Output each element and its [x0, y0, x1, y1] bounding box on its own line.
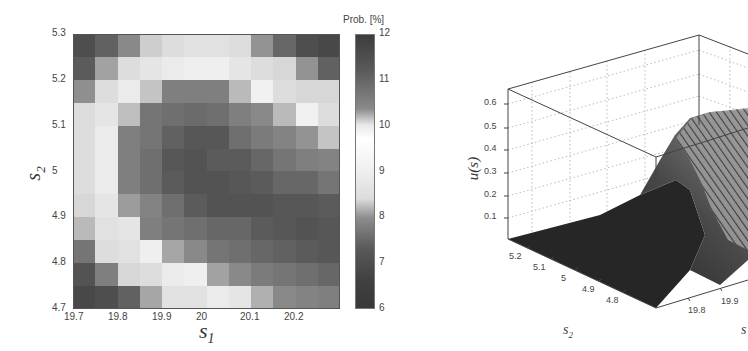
surface-s1-axis-label: s [741, 322, 746, 338]
tick-label: 0.1 [484, 211, 497, 221]
surface-s2-axis-label: s2 [563, 322, 573, 340]
tick-label: 4.9 [582, 284, 595, 294]
tick-label: 5.1 [533, 262, 546, 272]
z-label-text: u(s) [465, 157, 481, 180]
tick-label: 19.9 [721, 296, 739, 306]
s2-label-subscript: 2 [568, 330, 573, 340]
tick-label: 0.5 [484, 121, 497, 131]
tick-label: 5.2 [509, 251, 522, 261]
surface-flat-region [508, 180, 705, 308]
surface-plot-canvas [0, 0, 748, 351]
tick-label: 0.6 [484, 97, 497, 107]
tick-label: 0.2 [484, 189, 497, 199]
surface-z-axis-label: u(s) [465, 157, 482, 180]
tick-label: 0.3 [484, 166, 497, 176]
tick-label: 4.8 [606, 295, 619, 305]
tick-label: 0.4 [484, 143, 497, 153]
tick-label: 19.8 [688, 305, 706, 315]
s1-label-text: s [741, 322, 746, 337]
tick-label: 5 [561, 273, 566, 283]
